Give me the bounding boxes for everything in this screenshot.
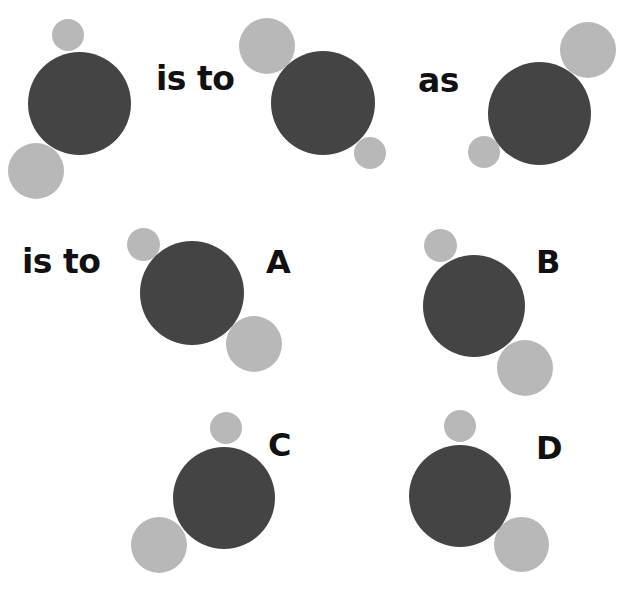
light-circle (131, 517, 187, 573)
light-circle (8, 143, 64, 199)
light-circle (494, 517, 549, 572)
dark-circle (271, 51, 375, 155)
dark-circle (409, 445, 511, 547)
dark-circle (488, 62, 591, 165)
analogy-puzzle: is to as is to A B C D (0, 0, 631, 598)
dark-circle (423, 255, 525, 357)
light-circle (424, 229, 457, 262)
word-as: as (418, 64, 459, 97)
dark-circle (140, 241, 244, 345)
light-circle (560, 22, 616, 78)
word-is-to-1: is to (156, 62, 234, 95)
dark-circle (173, 447, 275, 549)
light-circle (497, 340, 553, 396)
option-label-d[interactable]: D (536, 432, 563, 464)
dark-circle (28, 52, 131, 155)
option-label-a[interactable]: A (266, 246, 291, 278)
light-circle (52, 19, 84, 51)
option-label-c[interactable]: C (268, 429, 291, 461)
light-circle (444, 410, 476, 442)
light-circle (210, 412, 242, 444)
option-label-b[interactable]: B (536, 246, 560, 278)
light-circle (354, 137, 386, 169)
word-is-to-2: is to (22, 245, 100, 278)
light-circle (226, 316, 282, 372)
